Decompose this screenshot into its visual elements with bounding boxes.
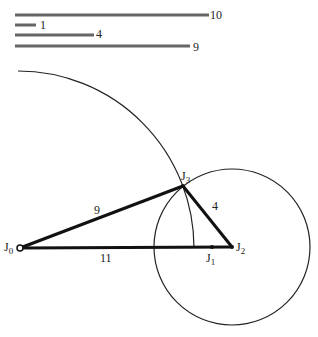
joint-label-j2: J2	[236, 241, 245, 256]
joint-j0-marker	[17, 245, 23, 251]
link-j0-j3	[20, 186, 183, 248]
joint-label-j3: J3	[181, 170, 190, 185]
link-label-j3-j2: 4	[212, 200, 218, 212]
diagram-canvas	[0, 0, 318, 337]
legend-label-4: 4	[96, 28, 102, 40]
legend-label-10: 10	[210, 9, 222, 21]
joint-j1-marker	[210, 245, 214, 249]
joint-j2-sub: 2	[241, 246, 246, 256]
link-j3-j2	[183, 186, 232, 247]
joint-j0-sub: 0	[9, 246, 14, 256]
joint-j1-sub: 1	[211, 257, 216, 267]
link-label-j0-j2: 11	[100, 252, 112, 264]
arc-radius-9-from-j0	[18, 71, 194, 248]
joint-j3-sub: 3	[186, 175, 191, 185]
joint-j2-marker	[230, 245, 234, 249]
link-j0-j2	[20, 247, 232, 248]
legend-label-9: 9	[193, 41, 199, 53]
link-label-j0-j3: 9	[94, 204, 100, 216]
joint-label-j0: J0	[4, 241, 13, 256]
legend-label-1: 1	[40, 19, 46, 31]
linkage-diagram: 10 1 4 9 J0 J1 J2 J3 9 4 11	[0, 0, 318, 337]
joint-label-j1: J1	[206, 252, 215, 267]
